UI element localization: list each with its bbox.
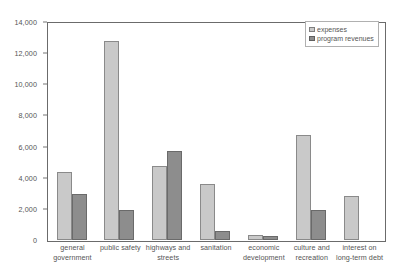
bar-chart: 14,000 12,000 10,000 8,000 6,000 4,000 2… bbox=[0, 0, 397, 274]
y-axis-label: 14,000 bbox=[14, 18, 37, 27]
y-axis-label: 8,000 bbox=[19, 111, 38, 120]
bar-group-interest-on-long-term-debt bbox=[336, 22, 384, 240]
x-axis-label: public safety bbox=[96, 243, 144, 253]
legend-label: expenses bbox=[317, 26, 347, 33]
bar-group-culture-and-recreation bbox=[288, 22, 336, 240]
y-axis-label: 2,000 bbox=[19, 204, 38, 213]
bar-revenues bbox=[119, 210, 134, 240]
y-axis-label: 0 bbox=[33, 236, 37, 245]
x-axis-label: economic development bbox=[240, 243, 288, 262]
bar-group-highways-and-streets bbox=[144, 22, 192, 240]
bar-expenses bbox=[152, 166, 167, 240]
legend-swatch-icon bbox=[309, 36, 315, 42]
x-axis-label: interest on long-term debt bbox=[336, 243, 384, 262]
x-axis-label: culture and recreation bbox=[288, 243, 336, 262]
y-axis: 14,000 12,000 10,000 8,000 6,000 4,000 2… bbox=[0, 0, 44, 274]
y-axis-label: 10,000 bbox=[14, 80, 37, 89]
legend-swatch-icon bbox=[309, 27, 315, 33]
bar-expenses bbox=[200, 184, 215, 240]
bar-group-general-government bbox=[49, 22, 97, 240]
y-axis-label: 4,000 bbox=[19, 173, 38, 182]
x-axis: general government public safety highway… bbox=[49, 243, 384, 273]
bar-revenues bbox=[311, 210, 326, 240]
bar-expenses bbox=[248, 235, 263, 240]
bars-layer bbox=[49, 22, 384, 240]
bar-revenues bbox=[215, 231, 230, 240]
bar-group-public-safety bbox=[96, 22, 144, 240]
bar-expenses bbox=[296, 135, 311, 240]
bar-revenues bbox=[167, 151, 182, 240]
y-axis-label: 6,000 bbox=[19, 142, 38, 151]
bar-revenues bbox=[263, 236, 278, 240]
legend-item-program-revenues: program revenues bbox=[309, 34, 374, 43]
x-axis-label: general government bbox=[49, 243, 97, 262]
legend-label: program revenues bbox=[317, 35, 374, 42]
legend: expenses program revenues bbox=[305, 21, 379, 47]
y-axis-label: 12,000 bbox=[14, 49, 37, 58]
bar-expenses bbox=[344, 196, 359, 240]
bar-expenses bbox=[57, 172, 72, 240]
legend-item-expenses: expenses bbox=[309, 25, 374, 34]
bar-group-sanitation bbox=[192, 22, 240, 240]
x-axis-label: sanitation bbox=[192, 243, 240, 253]
bar-revenues bbox=[72, 194, 87, 240]
x-axis-label: highways and streets bbox=[144, 243, 192, 262]
bar-group-economic-development bbox=[240, 22, 288, 240]
bar-expenses bbox=[104, 41, 119, 240]
